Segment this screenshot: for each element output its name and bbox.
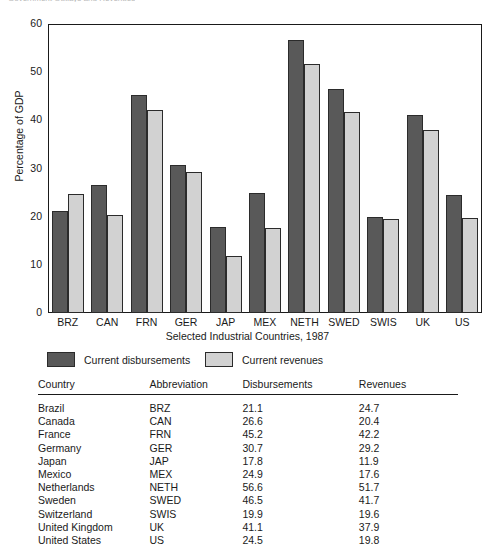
table-cell-abbreviation: US	[150, 533, 243, 546]
bar-uk-revenues	[423, 130, 439, 313]
table-row: JapanJAP17.811.9	[38, 454, 458, 467]
table-header-row: Country Abbreviation Disbursements Reven…	[38, 378, 458, 395]
table-cell-disbursements: 21.1	[242, 395, 358, 415]
table-cell-abbreviation: NETH	[150, 481, 243, 494]
y-tick-label-60: 60	[16, 17, 42, 29]
legend-label: Current revenues	[242, 354, 323, 366]
table-header-country: Country	[38, 378, 150, 395]
bar-us-revenues	[462, 218, 478, 313]
legend-swatch-disbursements	[47, 352, 75, 367]
table-cell-abbreviation: BRZ	[150, 395, 243, 415]
table-body: BrazilBRZ21.124.7CanadaCAN26.620.4France…	[38, 395, 458, 546]
legend-label: Current disbursements	[84, 354, 190, 366]
bar-swed-disbursements	[328, 89, 344, 313]
table-cell-revenues: 42.2	[359, 428, 458, 441]
table-cell-abbreviation: MEX	[150, 467, 243, 480]
table-row: SwedenSWED46.541.7	[38, 494, 458, 507]
table-cell-country: Mexico	[38, 467, 150, 480]
bar-jap-disbursements	[210, 227, 226, 313]
table-cell-country: Canada	[38, 415, 150, 428]
bar-swis-revenues	[383, 219, 399, 313]
y-tick-label-10: 10	[16, 258, 42, 270]
table-cell-country: United States	[38, 533, 150, 546]
table-cell-disbursements: 41.1	[242, 520, 358, 533]
table-row: FranceFRN45.242.2	[38, 428, 458, 441]
table-row: NetherlandsNETH56.651.7	[38, 481, 458, 494]
table-cell-abbreviation: FRN	[150, 428, 243, 441]
bar-ger-disbursements	[170, 165, 186, 313]
bar-swed-revenues	[344, 112, 360, 313]
table-cell-revenues: 51.7	[359, 481, 458, 494]
table-cell-revenues: 24.7	[359, 395, 458, 415]
table-cell-abbreviation: JAP	[150, 454, 243, 467]
bar-brz-revenues	[68, 194, 84, 313]
table-cell-disbursements: 24.5	[242, 533, 358, 546]
legend-swatch-revenues	[205, 352, 233, 367]
bar-frn-revenues	[147, 110, 163, 313]
bar-can-disbursements	[91, 185, 107, 313]
table-row: BrazilBRZ21.124.7	[38, 395, 458, 415]
legend-item-revenues: Current revenues	[205, 352, 323, 367]
table-cell-abbreviation: CAN	[150, 415, 243, 428]
bar-neth-disbursements	[288, 40, 304, 313]
y-tick-label-50: 50	[16, 65, 42, 77]
table-cell-country: Japan	[38, 454, 150, 467]
table-row: MexicoMEX24.917.6	[38, 467, 458, 480]
table-cell-revenues: 19.6	[359, 507, 458, 520]
bars-layer	[48, 24, 482, 313]
table-cell-disbursements: 30.7	[242, 441, 358, 454]
table-cell-abbreviation: UK	[150, 520, 243, 533]
table-cell-revenues: 29.2	[359, 441, 458, 454]
chart-legend: Current disbursementsCurrent revenues	[0, 352, 495, 372]
table-cell-abbreviation: GER	[150, 441, 243, 454]
legend-item-disbursements: Current disbursements	[47, 352, 190, 367]
table-cell-abbreviation: SWED	[150, 494, 243, 507]
bar-ger-revenues	[186, 172, 202, 313]
table-row: CanadaCAN26.620.4	[38, 415, 458, 428]
table-cell-abbreviation: SWIS	[150, 507, 243, 520]
bar-mex-revenues	[265, 228, 281, 313]
bar-uk-disbursements	[407, 115, 423, 313]
table-cell-disbursements: 17.8	[242, 454, 358, 467]
bar-brz-disbursements	[52, 211, 68, 313]
table-cell-country: France	[38, 428, 150, 441]
table-cell-country: Sweden	[38, 494, 150, 507]
table-cell-disbursements: 24.9	[242, 467, 358, 480]
y-tick-label-40: 40	[16, 113, 42, 125]
table-header-disbursements: Disbursements	[242, 378, 358, 395]
x-tick-label-us: US	[432, 316, 492, 328]
bar-chart: Percentage of GDP 0102030405060 BRZCANFR…	[0, 0, 495, 372]
table-cell-country: Switzerland	[38, 507, 150, 520]
table-cell-revenues: 17.6	[359, 467, 458, 480]
table-cell-revenues: 41.7	[359, 494, 458, 507]
table-row: GermanyGER30.729.2	[38, 441, 458, 454]
bar-can-revenues	[107, 215, 123, 313]
table-cell-revenues: 19.8	[359, 533, 458, 546]
bar-mex-disbursements	[249, 193, 265, 313]
bar-neth-revenues	[304, 64, 320, 313]
table-cell-disbursements: 45.2	[242, 428, 358, 441]
table-cell-revenues: 20.4	[359, 415, 458, 428]
bar-jap-revenues	[226, 256, 242, 313]
data-table: Country Abbreviation Disbursements Reven…	[38, 378, 458, 546]
table-cell-disbursements: 46.5	[242, 494, 358, 507]
table-cell-revenues: 37.9	[359, 520, 458, 533]
table-row: United StatesUS24.519.8	[38, 533, 458, 546]
table-cell-disbursements: 26.6	[242, 415, 358, 428]
table-header-revenues: Revenues	[359, 378, 458, 395]
bar-frn-disbursements	[131, 95, 147, 313]
y-axis-label: Percentage of GDP	[13, 71, 25, 201]
table-cell-country: Netherlands	[38, 481, 150, 494]
table-cell-country: United Kingdom	[38, 520, 150, 533]
table-cell-country: Germany	[38, 441, 150, 454]
table-row: United KingdomUK41.137.9	[38, 520, 458, 533]
y-tick-label-30: 30	[16, 162, 42, 174]
table-cell-disbursements: 19.9	[242, 507, 358, 520]
x-axis-label: Selected Industrial Countries, 1987	[0, 330, 495, 342]
table-header-abbreviation: Abbreviation	[150, 378, 243, 395]
table-cell-country: Brazil	[38, 395, 150, 415]
table-cell-revenues: 11.9	[359, 454, 458, 467]
table-cell-disbursements: 56.6	[242, 481, 358, 494]
bar-us-disbursements	[446, 195, 462, 313]
bar-swis-disbursements	[367, 217, 383, 313]
